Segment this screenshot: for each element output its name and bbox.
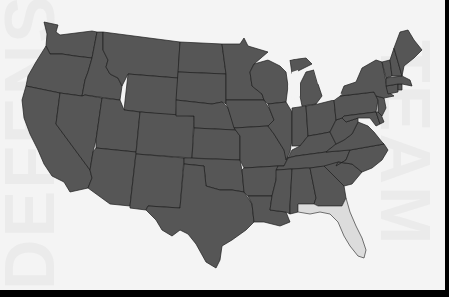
state-arizona[interactable] [88, 148, 136, 206]
state-iowa[interactable] [226, 100, 274, 128]
state-kansas[interactable] [192, 128, 240, 160]
state-new-mexico[interactable] [130, 154, 184, 210]
lake-michigan [288, 70, 300, 100]
state-florida[interactable] [298, 198, 366, 258]
state-wyoming[interactable] [124, 74, 178, 116]
us-map [0, 0, 445, 290]
state-north-dakota[interactable] [178, 42, 226, 74]
state-washington[interactable] [44, 22, 97, 58]
state-colorado[interactable] [136, 112, 194, 158]
state-rhode-island[interactable] [398, 84, 402, 90]
map-frame: TEAM DEFENSE [0, 0, 445, 290]
state-arkansas[interactable] [242, 166, 278, 196]
state-south-dakota[interactable] [176, 72, 226, 104]
